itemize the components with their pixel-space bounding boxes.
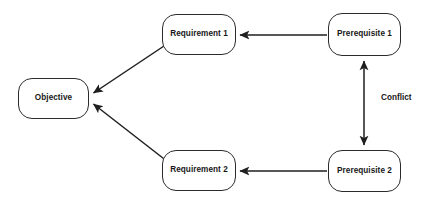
node-prerequisite-1[interactable]: Prerequisite 1	[328, 13, 401, 56]
node-requirement-2-label: Requirement 2	[170, 166, 228, 174]
node-requirement-2[interactable]: Requirement 2	[162, 150, 236, 191]
conflict-resolution-diagram: Objective Requirement 1 Requirement 2 Pr…	[0, 0, 425, 200]
edge-label-conflict: Conflict	[381, 94, 411, 102]
edge-requirement-1-to-objective	[94, 44, 168, 93]
node-prerequisite-2-label: Prerequisite 2	[337, 167, 392, 175]
node-requirement-1-label: Requirement 1	[170, 30, 228, 38]
node-prerequisite-1-label: Prerequisite 1	[337, 30, 392, 38]
node-requirement-1[interactable]: Requirement 1	[162, 14, 236, 55]
node-objective[interactable]: Objective	[18, 78, 89, 119]
edge-requirement-2-to-objective	[94, 104, 169, 162]
node-prerequisite-2[interactable]: Prerequisite 2	[328, 150, 401, 192]
node-objective-label: Objective	[35, 94, 72, 102]
